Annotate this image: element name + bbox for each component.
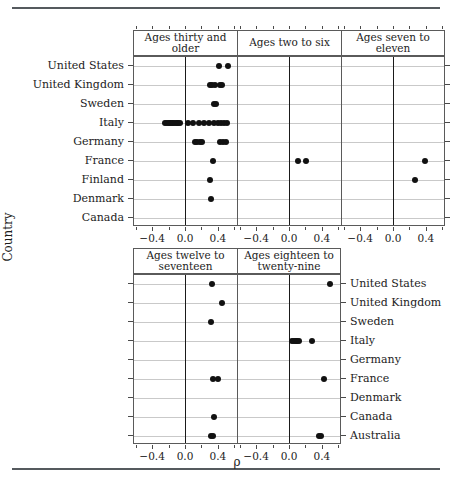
x-tick-label: −0.4: [139, 450, 165, 462]
x-tick-minor: [201, 445, 202, 448]
x-tick-top: [273, 26, 274, 29]
y-tick-mark: [341, 378, 346, 379]
x-tick-major: [218, 227, 219, 231]
y-tick-mark: [128, 179, 133, 180]
y-axis-category-label: Germany: [73, 135, 124, 148]
panel-strip-label: Ages eighteen to twenty-nine: [237, 248, 341, 274]
y-tick-mark: [128, 416, 133, 417]
y-tick-mark: [341, 283, 346, 284]
x-tick-minor: [240, 227, 241, 230]
x-tick-top: [409, 26, 410, 29]
x-tick-top: [393, 26, 394, 29]
y-tick-mark: [128, 141, 133, 142]
x-tick-major: [360, 227, 361, 231]
top-rule: [12, 7, 440, 9]
y-axis-category-label: Canada: [350, 409, 392, 422]
x-tick-major: [185, 227, 186, 231]
x-tick-minor: [136, 227, 137, 230]
y-axis-category-label: Germany: [350, 353, 401, 366]
x-tick-major: [393, 227, 394, 231]
y-tick-mark: [445, 103, 450, 104]
y-tick-mark: [128, 321, 133, 322]
y-tick-mark: [128, 283, 133, 284]
x-tick-major: [256, 227, 257, 231]
x-tick-top: [234, 26, 235, 29]
y-tick-mark: [445, 160, 450, 161]
y-tick-mark: [128, 103, 133, 104]
x-tick-minor: [234, 227, 235, 230]
x-tick-top: [169, 26, 170, 29]
x-tick-top: [289, 26, 290, 29]
y-axis-category-label: Australia: [350, 428, 401, 441]
y-tick-mark: [128, 359, 133, 360]
y-tick-mark: [341, 359, 346, 360]
y-tick-mark: [128, 302, 133, 303]
y-axis-category-label: Sweden: [80, 97, 124, 110]
y-tick-mark: [341, 302, 346, 303]
x-tick-label: −0.4: [243, 450, 269, 462]
y-axis-category-label: Sweden: [350, 315, 394, 328]
x-tick-label: 0.4: [210, 450, 227, 462]
x-tick-top: [152, 26, 153, 29]
y-axis-category-label: United Kingdom: [33, 78, 124, 91]
y-axis-category-label: France: [85, 153, 124, 166]
x-tick-top: [338, 26, 339, 29]
x-tick-top: [305, 26, 306, 29]
x-tick-label: 0.0: [177, 450, 194, 462]
y-tick-mark: [341, 435, 346, 436]
y-tick-mark: [445, 198, 450, 199]
x-tick-top: [426, 26, 427, 29]
y-tick-mark: [445, 141, 450, 142]
x-tick-minor: [344, 227, 345, 230]
y-tick-mark: [128, 122, 133, 123]
y-tick-mark: [445, 84, 450, 85]
x-tick-top: [218, 26, 219, 29]
y-axis-category-label: Denmark: [350, 390, 401, 403]
x-tick-top: [201, 26, 202, 29]
x-tick-label: 0.0: [177, 232, 194, 244]
x-tick-label: −0.4: [139, 232, 165, 244]
y-tick-mark: [128, 84, 133, 85]
x-tick-minor: [234, 445, 235, 448]
x-tick-label: 0.0: [281, 450, 298, 462]
x-tick-minor: [442, 227, 443, 230]
x-tick-minor: [305, 445, 306, 448]
y-axis-category-label: United States: [350, 277, 426, 290]
x-tick-top: [360, 26, 361, 29]
x-tick-minor: [240, 445, 241, 448]
top-panel-block: Ages thirty and olderAges two to sixAges…: [0, 30, 450, 252]
panel-strip-row: Ages twelve to seventeenAges eighteen to…: [133, 248, 341, 274]
x-tick-top: [322, 26, 323, 29]
y-axis: United StatesUnited KingdomSwedenItalyGe…: [0, 56, 450, 226]
x-axis: −0.40.00.4−0.40.00.4−0.40.00.4: [133, 227, 445, 247]
panel-strip-label: Ages thirty and older: [133, 30, 237, 56]
panel-strip-label: Ages twelve to seventeen: [133, 248, 237, 274]
bottom-panel-block: Ages twelve to seventeenAges eighteen to…: [0, 248, 450, 470]
x-tick-minor: [273, 227, 274, 230]
panel-strip-row: Ages thirty and olderAges two to sixAges…: [133, 30, 445, 56]
x-tick-top: [136, 26, 137, 29]
x-tick-minor: [377, 227, 378, 230]
x-tick-major: [289, 227, 290, 231]
y-tick-mark: [128, 160, 133, 161]
x-tick-label: −0.4: [243, 232, 269, 244]
x-tick-minor: [201, 227, 202, 230]
x-tick-major: [152, 227, 153, 231]
y-axis-category-label: Italy: [99, 116, 124, 129]
x-tick-top: [256, 26, 257, 29]
x-tick-label: 0.4: [210, 232, 227, 244]
y-tick-mark: [128, 340, 133, 341]
y-tick-mark: [128, 198, 133, 199]
y-axis-category-label: United States: [48, 59, 124, 72]
x-tick-minor: [169, 445, 170, 448]
x-tick-major: [256, 445, 257, 449]
x-tick-major: [185, 445, 186, 449]
y-tick-mark: [128, 435, 133, 436]
y-tick-mark: [128, 397, 133, 398]
x-axis-top-ticks: [133, 26, 445, 30]
x-tick-minor: [305, 227, 306, 230]
y-axis-category-label: Finland: [82, 172, 124, 185]
x-tick-top: [185, 26, 186, 29]
figure-container: Country ρ Ages thirty and olderAges two …: [0, 0, 450, 485]
x-tick-major: [218, 445, 219, 449]
